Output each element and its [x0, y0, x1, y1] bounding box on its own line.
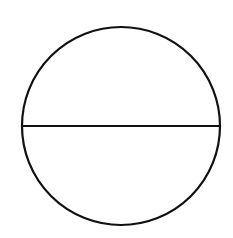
circle-diagram: [0, 0, 233, 238]
diagram-canvas: [0, 0, 233, 238]
